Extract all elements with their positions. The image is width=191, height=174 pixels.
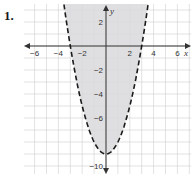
y-tick-label: −2 xyxy=(94,66,104,75)
x-tick-label: −2 xyxy=(78,49,88,58)
inequality-graph: −6−4−22462−2−4−6−10xy xyxy=(0,0,191,174)
x-axis-label: x xyxy=(183,48,188,58)
y-tick-label: −10 xyxy=(89,162,103,171)
y-tick-label: 2 xyxy=(99,18,104,27)
x-tick-label: −4 xyxy=(54,49,64,58)
y-axis-label: y xyxy=(109,6,114,16)
x-tick-label: 6 xyxy=(175,49,180,58)
x-tick-label: 2 xyxy=(128,49,133,58)
y-tick-label: −6 xyxy=(94,114,104,123)
x-tick-label: −6 xyxy=(30,49,40,58)
x-tick-label: 4 xyxy=(151,49,156,58)
y-tick-label: −4 xyxy=(94,90,104,99)
